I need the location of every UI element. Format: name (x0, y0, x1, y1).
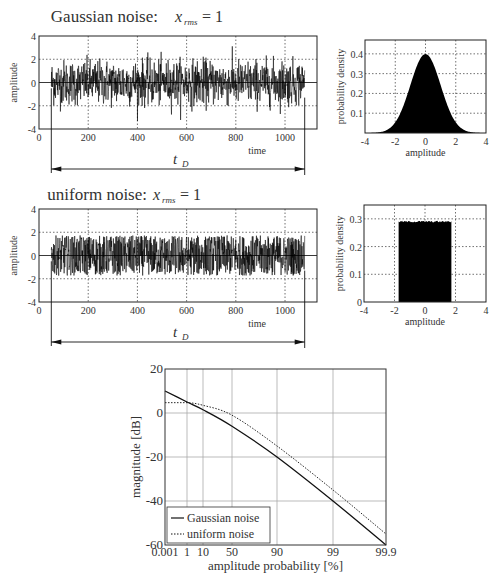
svg-text:50: 50 (226, 545, 238, 559)
svg-text:Gaussian noise:: Gaussian noise: (51, 7, 158, 26)
svg-text:0.3: 0.3 (350, 214, 363, 225)
gaussian-title: Gaussian noise: x rms = 1 (51, 7, 223, 27)
svg-text:0.1: 0.1 (351, 108, 364, 119)
svg-text:amplitude: amplitude (405, 316, 446, 327)
svg-text:2: 2 (453, 136, 458, 147)
svg-text:10: 10 (197, 545, 209, 559)
signal-trace (51, 235, 304, 275)
svg-text:800: 800 (228, 305, 243, 316)
gaussian-time-plot: 420-2-402004006008001000timeamplitudetD (8, 31, 317, 175)
svg-text:magnitude [dB]: magnitude [dB] (128, 416, 143, 498)
svg-text:amplitude probability [%]: amplitude probability [%] (208, 558, 343, 573)
svg-text:0: 0 (31, 251, 36, 262)
svg-text:-4: -4 (28, 124, 36, 135)
svg-text:400: 400 (130, 132, 145, 143)
svg-text:time: time (248, 145, 266, 156)
svg-text:4: 4 (31, 204, 36, 215)
svg-text:= 1: = 1 (180, 186, 201, 203)
svg-text:= 1: = 1 (202, 8, 223, 25)
signal-trace (51, 46, 304, 121)
svg-text:D: D (181, 332, 189, 342)
svg-text:800: 800 (228, 132, 243, 143)
svg-text:Gaussian noise: Gaussian noise (187, 511, 259, 525)
svg-text:probability density: probability density (334, 216, 345, 291)
svg-text:-4: -4 (28, 297, 36, 308)
svg-text:0: 0 (37, 132, 42, 143)
svg-text:0.1: 0.1 (350, 269, 363, 280)
uniform-time-plot: 420-2-402004006008001000timeamplitudetD (8, 204, 317, 348)
svg-text:0: 0 (423, 136, 428, 147)
svg-text:4: 4 (31, 31, 36, 42)
svg-text:-4: -4 (361, 136, 369, 147)
svg-text:-2: -2 (390, 305, 398, 316)
svg-text:0.001: 0.001 (152, 545, 179, 559)
svg-text:0: 0 (423, 305, 428, 316)
svg-text:rms: rms (184, 17, 198, 27)
svg-text:rms: rms (162, 195, 176, 205)
svg-text:0: 0 (157, 405, 164, 420)
svg-text:1000: 1000 (275, 132, 295, 143)
uniform-title: uniform noise: x rms = 1 (47, 185, 201, 205)
svg-text:-2: -2 (391, 136, 399, 147)
svg-text:time: time (248, 318, 266, 329)
svg-text:4: 4 (484, 305, 489, 316)
svg-text:amplitude: amplitude (406, 147, 447, 158)
svg-text:600: 600 (179, 132, 194, 143)
svg-text:-4: -4 (360, 305, 368, 316)
svg-text:uniform noise: uniform noise (187, 527, 254, 541)
svg-text:0: 0 (37, 305, 42, 316)
svg-text:90: 90 (271, 545, 283, 559)
svg-text:0.2: 0.2 (350, 242, 363, 253)
svg-text:200: 200 (81, 132, 96, 143)
svg-text:99: 99 (327, 545, 339, 559)
svg-text:-2: -2 (28, 101, 36, 112)
svg-text:600: 600 (179, 305, 194, 316)
svg-text:x: x (152, 186, 160, 203)
svg-text:0.2: 0.2 (351, 88, 364, 99)
svg-text:1: 1 (184, 545, 190, 559)
gaussian-pdf-plot: 0.40.30.20.1-4-2024amplitudeprobability … (335, 40, 489, 158)
svg-text:2: 2 (31, 54, 36, 65)
svg-text:2: 2 (453, 305, 458, 316)
svg-text:0.4: 0.4 (351, 49, 364, 60)
uniform-pdf-plot: 0.30.20.10-4-2024amplitudeprobability de… (334, 205, 489, 327)
svg-text:amplitude: amplitude (8, 62, 19, 103)
svg-text:4: 4 (484, 136, 489, 147)
svg-text:t: t (173, 151, 178, 167)
pdf-fill (399, 221, 452, 302)
svg-text:99.9: 99.9 (376, 545, 397, 559)
svg-text:D: D (181, 159, 189, 169)
svg-text:uniform noise:: uniform noise: (47, 185, 147, 204)
svg-text:amplitude: amplitude (8, 235, 19, 276)
svg-text:-40: -40 (146, 493, 163, 508)
svg-text:20: 20 (150, 361, 163, 376)
legend: Gaussian noise uniform noise (167, 507, 270, 543)
svg-text:2: 2 (31, 227, 36, 238)
figure: Gaussian noise: x rms = 1 420-2-40200400… (0, 0, 503, 583)
svg-text:1000: 1000 (275, 305, 295, 316)
svg-text:-2: -2 (28, 274, 36, 285)
svg-text:400: 400 (130, 305, 145, 316)
svg-text:t: t (173, 324, 178, 340)
svg-text:0.3: 0.3 (351, 69, 364, 80)
svg-text:probability density: probability density (335, 49, 346, 124)
svg-text:-20: -20 (146, 449, 163, 464)
svg-text:0: 0 (31, 78, 36, 89)
svg-text:200: 200 (81, 305, 96, 316)
svg-text:x: x (174, 8, 182, 25)
